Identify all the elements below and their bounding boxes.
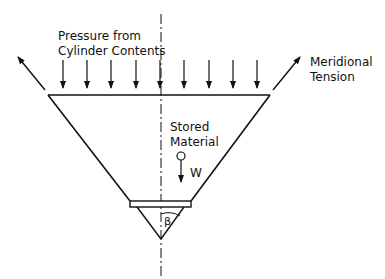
- stored-label-1: Stored: [170, 120, 209, 134]
- hopper-diagram: Pressure from Cylinder Contents Meridion…: [0, 0, 385, 279]
- tension-arrow-left: [18, 57, 45, 90]
- tension-label-2: Tension: [309, 70, 355, 84]
- pressure-label-2: Cylinder Contents: [58, 44, 165, 58]
- pressure-label-1: Pressure from: [58, 29, 141, 43]
- hopper-cone: [48, 95, 270, 201]
- outlet-plate: [130, 201, 191, 207]
- tension-label-1: Meridional: [310, 55, 373, 69]
- stored-label-2: Material: [170, 135, 219, 149]
- angle-label: β: [164, 215, 171, 228]
- weight-label: W: [190, 166, 202, 180]
- pressure-arrows: [63, 60, 257, 88]
- weight-circle: [177, 152, 185, 160]
- tension-arrow-right: [273, 57, 300, 90]
